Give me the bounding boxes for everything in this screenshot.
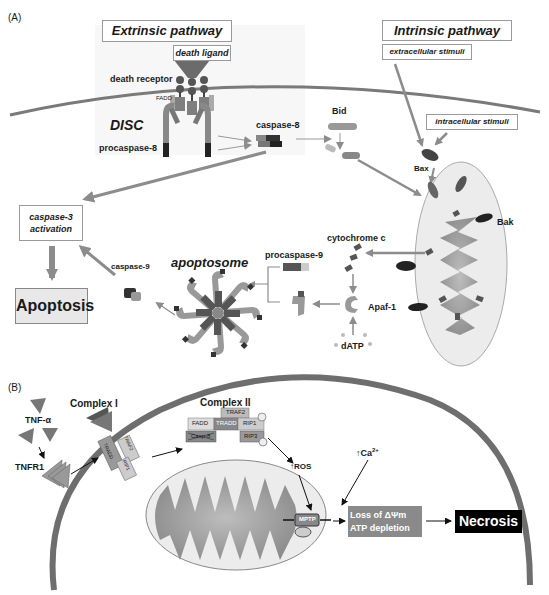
datp-label: dATP <box>341 341 364 351</box>
complex-2-casp8: Casp-8 <box>191 433 210 439</box>
complex-2-rip1: RIP1 <box>243 420 256 426</box>
complex-2-tradd: TRADD <box>216 420 237 426</box>
apoptosis-box: Apoptosis <box>15 288 88 324</box>
caspase-3-line1: caspase-3 <box>20 211 82 223</box>
cytochrome-c-label: cytochrome c <box>327 233 386 243</box>
complex-2-label: Complex II <box>200 397 251 408</box>
complex-2-traf2: TRAF2 <box>226 409 245 415</box>
intracellular-stimuli-label: intracellular stimuli <box>426 114 518 130</box>
death-receptor-label: death receptor <box>110 74 173 84</box>
mptp-label: MPTP <box>299 516 316 522</box>
apaf-1-label: Apaf-1 <box>368 302 396 312</box>
caspase-9-icon <box>124 288 141 301</box>
mitochondrion-a <box>396 162 507 366</box>
tnf-alpha-label: TNF-α <box>25 415 51 425</box>
ros-label: ↑ROS <box>290 462 311 471</box>
apoptosome-label: apoptosome <box>171 255 248 270</box>
caspase-3-activation-box: caspase-3 activation <box>19 205 83 241</box>
extracellular-stimuli-label: extracellular stimuli <box>382 44 472 60</box>
panel-b-label: (B) <box>8 382 21 393</box>
mitochondrion-b <box>146 460 331 570</box>
death-ligand-label: death ligand <box>173 45 231 61</box>
tnfr1-label: TNFR1 <box>15 462 44 472</box>
complex-2-rip3: RIP3 <box>244 433 257 439</box>
bak-label: Bak <box>497 217 514 227</box>
extrinsic-pathway-title: Extrinsic pathway <box>102 20 232 42</box>
calcium-label: ↑Ca2+ <box>356 447 379 458</box>
apaf-cytc-icon <box>292 296 305 316</box>
bax-label: Bax <box>414 164 429 173</box>
necrosis-box: Necrosis <box>455 510 522 533</box>
loss-atp-box: Loss of ΔΨm ATP depletion <box>348 506 422 537</box>
caspase-3-line2: activation <box>20 223 82 235</box>
apoptosome-icon <box>174 269 262 357</box>
intrinsic-pathway-title: Intrinsic pathway <box>382 20 512 41</box>
complex-1-label: Complex I <box>70 398 118 409</box>
disc-label: DISC <box>110 117 143 133</box>
fadd-label: FADD <box>156 95 172 101</box>
bid-icon <box>324 123 360 159</box>
caspase-8-icon <box>256 135 282 147</box>
loss-line1: Loss of ΔΨm <box>350 509 420 522</box>
procaspase-9-label: procaspase-9 <box>265 250 323 260</box>
apaf-1-icon <box>345 296 358 313</box>
procaspase-8-label: procaspase-8 <box>99 143 157 153</box>
bax-icon <box>420 147 441 164</box>
cytochrome-c-icon <box>344 243 362 272</box>
complex-2-fadd: FADD <box>192 420 208 426</box>
bid-label: Bid <box>332 106 347 116</box>
caspase-8-label: caspase-8 <box>256 120 300 130</box>
tnfr1-icon <box>42 460 70 488</box>
procaspase-9-icon <box>283 263 309 271</box>
caspase-9-label: caspase-9 <box>111 262 150 271</box>
loss-line2: ATP depletion <box>350 522 420 535</box>
panel-a-label: (A) <box>8 12 21 23</box>
